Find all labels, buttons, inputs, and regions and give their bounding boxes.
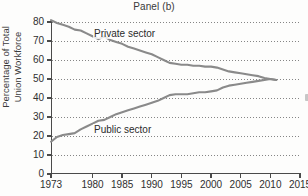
plot-area <box>51 22 300 174</box>
chart-figure: Panel (b) Percentage of Total Union Work… <box>0 0 308 196</box>
y-axis-tick-label: 0 <box>22 168 44 179</box>
y-axis-tick-label: 60 <box>22 54 44 65</box>
y-axis-tick-label: 20 <box>22 130 44 141</box>
series-lines <box>51 22 300 174</box>
convergence-marker <box>305 94 308 101</box>
series-line-private-sector <box>51 20 276 80</box>
x-axis-tick-label: 1973 <box>31 179 71 190</box>
y-axis-tick-label: 30 <box>22 111 44 122</box>
series-label-private-sector: Private sector <box>93 28 156 39</box>
y-axis-tick-label: 80 <box>22 16 44 27</box>
x-axis-tick-label: 2015 <box>280 179 308 190</box>
y-axis-tick-label: 50 <box>22 73 44 84</box>
y-axis-tick-label: 10 <box>22 149 44 160</box>
y-axis-tick-label: 70 <box>22 35 44 46</box>
x-axis-tick-labels: 197319801985199019952000200520102015 <box>0 179 308 193</box>
series-line-public-sector <box>51 79 276 142</box>
y-axis-tick-label: 40 <box>22 92 44 103</box>
series-label-public-sector: Public sector <box>93 124 152 135</box>
chart-title: Panel (b) <box>0 1 308 12</box>
